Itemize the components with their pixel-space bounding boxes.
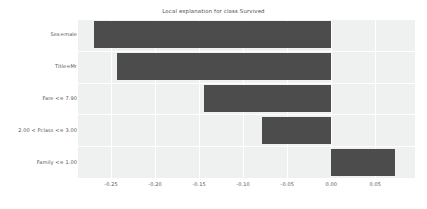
y-gridline: [78, 51, 415, 52]
x-tick-label: -0.15: [179, 181, 219, 188]
y-gridline: [78, 83, 415, 84]
y-gridline: [78, 19, 415, 20]
x-tick-label: -0.25: [91, 181, 131, 188]
chart-title: Local explanation for class Survived: [0, 7, 427, 15]
x-tick-label: -0.20: [135, 181, 175, 188]
y-tick-label: Family <= 1.00: [37, 159, 77, 166]
x-tick-label: 0.05: [355, 181, 395, 188]
bar: [94, 21, 331, 48]
y-tick-label: 2.00 < Pclass <= 3.00: [18, 127, 77, 134]
bar: [204, 85, 332, 112]
bar: [262, 117, 332, 144]
y-gridline: [78, 146, 415, 147]
x-tick-label: 0.00: [311, 181, 351, 188]
bar: [117, 53, 331, 80]
chart-figure: Local explanation for class Survived Sex…: [0, 0, 427, 209]
y-tick-label: Title=Mr: [55, 63, 77, 70]
y-tick-label: Fare <= 7.90: [43, 95, 77, 102]
y-tick-label: Sex=male: [50, 31, 77, 38]
x-tick-label: -0.05: [267, 181, 307, 188]
y-gridline: [78, 114, 415, 115]
plot-area: [78, 19, 415, 178]
bar: [331, 149, 394, 176]
x-tick-label: -0.10: [223, 181, 263, 188]
